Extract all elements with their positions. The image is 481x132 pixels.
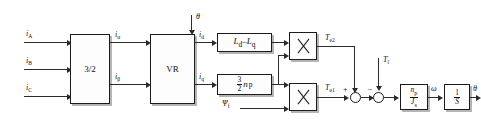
label-load-torque: Tl [383,55,389,64]
wire-te2-down [354,46,355,92]
arrowhead-theta-output [476,95,481,101]
block-torque-constant[interactable]: 32np [217,74,272,95]
label-te1: Te1 [325,83,335,92]
wire-torque-const-branch [278,55,279,84]
block-vr-label: VR [166,65,179,74]
block-multiplier-top[interactable] [289,32,317,60]
label-current-phase-b: iB [26,56,32,65]
label-theta-output: θ [473,84,477,93]
wire-load-torque [378,58,379,88]
label-current-phase-a: iA [26,29,32,38]
label-flux-linkage: Ψf [222,99,230,108]
block-diagram-canvas: iA iB iC 3/2 iα iβ θ VR id iq Ld–Lq 32np [0,0,481,132]
arrowhead-sum2-to-inertia [394,95,399,101]
label-omega: ω [431,84,437,93]
wire-ib [24,69,69,70]
wire-ic [24,96,69,97]
label-i-d: id [199,30,204,39]
block-clarke-label: 3/2 [84,65,96,74]
block-clarke-3-to-2[interactable]: 3/2 [70,34,110,104]
block-ld-lq-label: Ld–Lq [233,37,255,48]
label-te2: Te2 [325,33,335,42]
block-integrator[interactable]: 1S [444,84,470,110]
wire-te1 [317,97,346,98]
sign-plus-sum1: + [343,85,348,94]
arrowhead-te1-into-sum1 [344,95,349,101]
label-i-alpha: iα [115,30,120,39]
label-current-phase-c: iC [26,83,32,92]
multiply-icon [290,33,316,59]
multiply-icon [290,84,316,110]
label-theta-input: θ [196,12,200,21]
arrowhead-load-torque [376,86,382,91]
summing-junction-2[interactable] [373,92,384,103]
block-multiplier-bottom[interactable] [289,83,317,111]
wire-te2 [317,46,355,47]
block-integrator-label: 1S [454,89,460,106]
label-i-q: iq [199,72,204,81]
wire-flux-linkage [240,108,286,109]
sign-minus-sum2: – [368,84,372,93]
block-inertia-label: npJs [410,86,419,107]
block-vector-rotator[interactable]: VR [150,34,195,104]
wire-i-alpha [110,42,148,43]
block-inductance-difference[interactable]: Ld–Lq [217,33,272,52]
label-i-beta: iβ [115,72,120,81]
summing-junction-1[interactable] [350,92,361,103]
block-inertia[interactable]: npJs [400,84,428,110]
wire-ia [24,42,69,43]
arrowhead-omega [438,95,443,101]
wire-i-beta [110,84,148,85]
block-torque-constant-label: 32np [237,76,253,93]
